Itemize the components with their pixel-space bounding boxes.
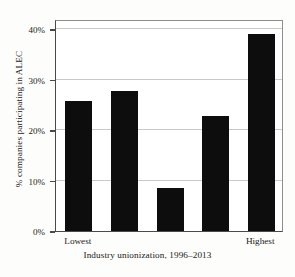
x-tick-label: Highest [220, 236, 295, 246]
y-tick-label: 40% [15, 25, 45, 35]
y-tick-label: 20% [15, 126, 45, 136]
y-tick-label: 30% [15, 76, 45, 86]
x-tick-label: Lowest [38, 236, 118, 246]
x-axis-title: Industry unionization, 1996–2013 [0, 250, 295, 260]
bar [157, 188, 184, 231]
y-tick-label: 10% [15, 177, 45, 187]
bar-series [56, 21, 282, 231]
bar [248, 34, 275, 231]
bar [202, 116, 229, 231]
bar [65, 101, 92, 231]
bar-chart-figure: % companies participating in ALEC 0%10%2… [0, 0, 295, 277]
bar [111, 91, 138, 231]
plot-area [55, 20, 283, 232]
